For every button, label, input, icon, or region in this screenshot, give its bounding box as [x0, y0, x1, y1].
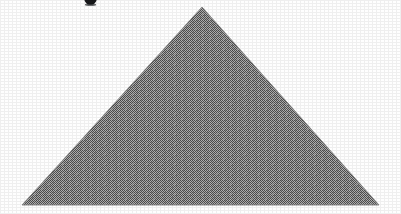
triangle-scan-speckle: [0, 0, 401, 214]
triangle-shape: [0, 0, 401, 214]
figure-canvas: [0, 0, 401, 214]
triangle-figure-svg: [0, 0, 401, 214]
